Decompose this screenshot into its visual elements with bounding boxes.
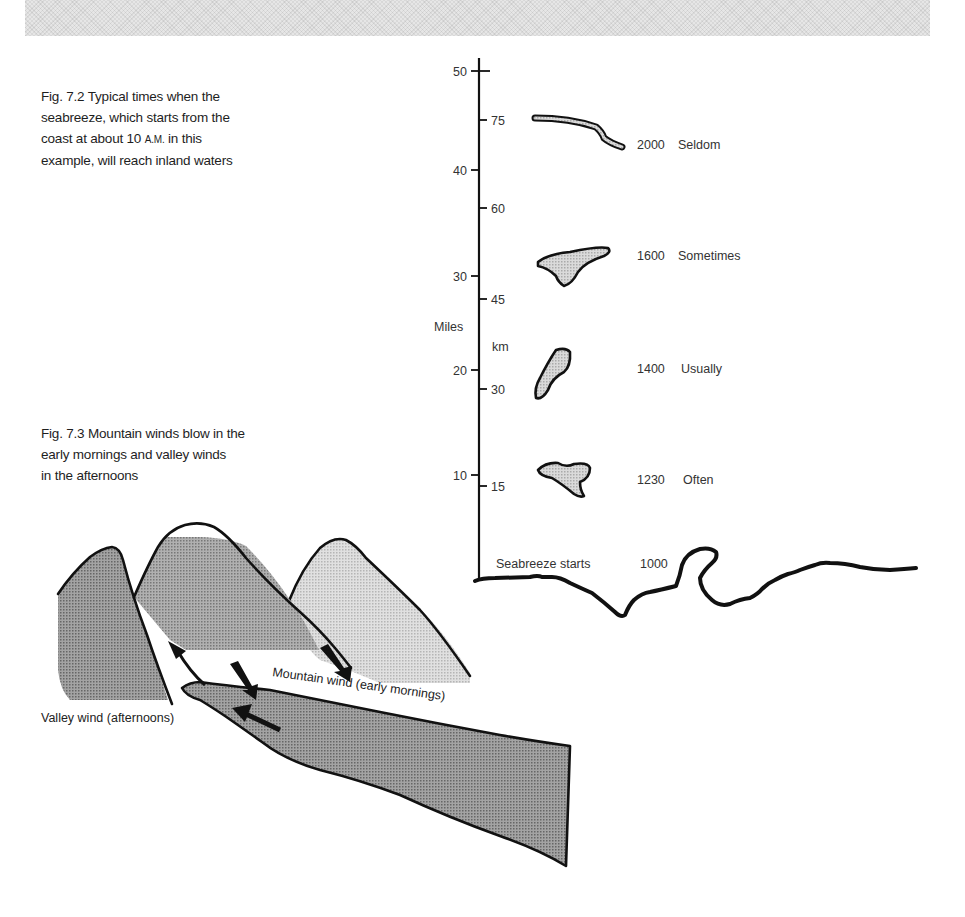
miles-tick-40: 40 bbox=[453, 164, 467, 178]
km-tick-45: 45 bbox=[491, 293, 505, 307]
km-tick-15: 15 bbox=[491, 480, 505, 494]
time-label-2000: 2000 bbox=[637, 138, 665, 152]
miles-ticks bbox=[471, 71, 490, 475]
seabreeze-front-1400 bbox=[536, 349, 571, 398]
seabreeze-chart: 50 40 30 20 10 75 60 45 30 15 Miles km 2… bbox=[434, 58, 916, 616]
miles-tick-10: 10 bbox=[453, 469, 467, 483]
seabreeze-start-label: Seabreeze starts bbox=[496, 557, 591, 571]
time-label-1600: 1600 bbox=[637, 249, 665, 263]
frequency-label-sometimes: Sometimes bbox=[678, 249, 741, 263]
valley-wind-label: Valley wind (afternoons) bbox=[41, 711, 174, 725]
miles-axis-label: Miles bbox=[434, 320, 463, 334]
mountain-valley-diagram: Mountain wind (early mornings) Valley wi… bbox=[41, 523, 570, 866]
km-tick-30: 30 bbox=[491, 383, 505, 397]
seabreeze-front-1230 bbox=[538, 463, 590, 497]
frequency-label-seldom: Seldom bbox=[678, 138, 720, 152]
miles-tick-50: 50 bbox=[453, 65, 467, 79]
km-axis-label: km bbox=[492, 340, 509, 354]
km-ticks bbox=[479, 120, 487, 486]
seabreeze-start-time: 1000 bbox=[640, 557, 668, 571]
miles-tick-20: 20 bbox=[453, 364, 467, 378]
time-label-1230: 1230 bbox=[637, 473, 665, 487]
time-label-1400: 1400 bbox=[637, 362, 665, 376]
seabreeze-front-1600 bbox=[538, 248, 609, 287]
frequency-label-often: Often bbox=[683, 473, 714, 487]
mountain-far-right bbox=[289, 538, 470, 683]
km-tick-75: 75 bbox=[491, 114, 505, 128]
frequency-label-usually: Usually bbox=[681, 362, 723, 376]
km-tick-60: 60 bbox=[491, 202, 505, 216]
seabreeze-front-2000 bbox=[535, 118, 622, 147]
miles-tick-30: 30 bbox=[453, 270, 467, 284]
